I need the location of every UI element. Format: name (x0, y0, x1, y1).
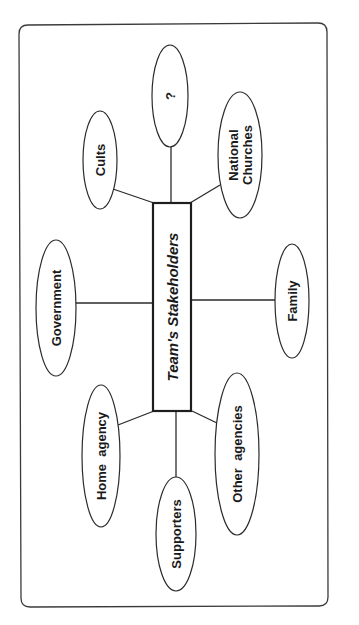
center-label: Team's Stakeholders (164, 233, 181, 382)
node-label: National (226, 129, 241, 180)
node-family[interactable]: Family (275, 244, 309, 358)
node-government[interactable]: Government (36, 240, 76, 376)
node-label: Other agencies (230, 405, 245, 503)
node-national-churches[interactable]: NationalChurches (218, 92, 262, 218)
node-unknown[interactable]: ? (152, 45, 188, 147)
node-label: Family (285, 280, 300, 322)
connector-home-agency (118, 411, 154, 425)
node-label: Government (49, 269, 64, 346)
node-label: Home agency (94, 411, 109, 500)
node-cults[interactable]: Cults (83, 111, 117, 209)
connector-cults (113, 189, 154, 203)
center-node[interactable]: Team's Stakeholders (153, 203, 191, 411)
connector-other-agencies (192, 411, 217, 423)
node-other-agencies[interactable]: Other agencies (215, 373, 259, 535)
node-home-agency[interactable]: Home agency (82, 385, 120, 527)
connector-national-churches (190, 185, 220, 203)
node-label: ? (163, 92, 178, 100)
node-supporters[interactable]: Supporters (156, 477, 196, 591)
node-label: Churches (240, 125, 255, 185)
stakeholder-diagram: Cults?NationalChurchesGovernmentFamilyHo… (0, 0, 359, 625)
node-label: Supporters (169, 499, 184, 568)
node-label: Cults (93, 144, 108, 177)
